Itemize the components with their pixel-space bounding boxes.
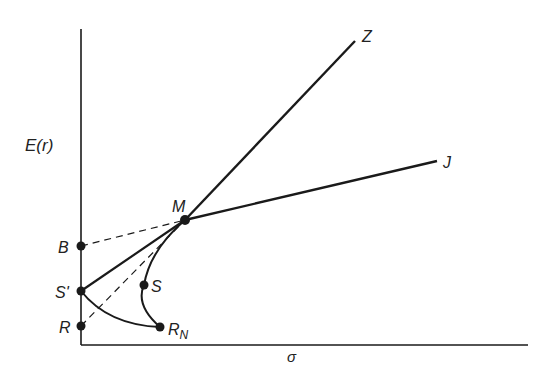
label-R: R xyxy=(59,319,71,336)
label-B: B xyxy=(58,239,69,256)
point-M xyxy=(180,215,190,225)
line-M-J xyxy=(185,161,437,220)
curve-Sprime-RN xyxy=(81,291,160,327)
point-R xyxy=(77,322,86,331)
label-Z: Z xyxy=(361,28,373,45)
label-S: S xyxy=(151,278,162,295)
line-Sprime-M xyxy=(81,220,185,291)
diagram-canvas: E(r) σ M B S' R S RN Z J xyxy=(0,0,544,375)
label-J: J xyxy=(442,154,452,171)
point-B xyxy=(77,242,86,251)
point-R-N xyxy=(156,323,165,332)
line-M-Z xyxy=(185,41,355,220)
label-R-N: RN xyxy=(168,321,189,342)
x-axis-label: σ xyxy=(287,348,297,365)
dashed-line-B-M xyxy=(81,220,185,246)
point-S-prime xyxy=(77,287,86,296)
label-S-prime: S' xyxy=(55,284,70,301)
label-M: M xyxy=(172,198,186,215)
y-axis-label: E(r) xyxy=(25,136,53,155)
point-S xyxy=(140,281,149,290)
